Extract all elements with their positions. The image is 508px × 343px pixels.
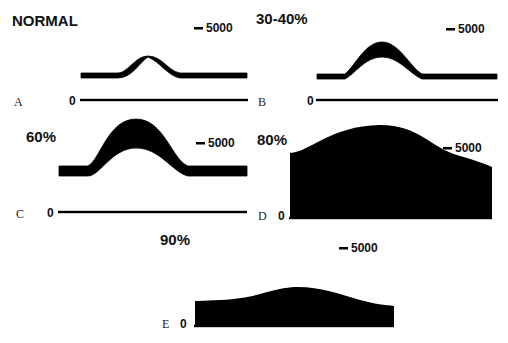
scale-bar-tick: [443, 147, 452, 150]
scale-bar: 5000: [194, 21, 233, 35]
panel-letter: E: [162, 317, 169, 331]
panel-letter: C: [16, 207, 24, 221]
scale-bar-label: 5000: [455, 141, 482, 155]
scale-bar: 5000: [446, 22, 485, 36]
scale-bar: 5000: [339, 241, 378, 255]
pressure-envelope: [195, 287, 394, 326]
panel-title: 60%: [26, 128, 56, 145]
scale-bar-label: 5000: [208, 136, 235, 150]
scale-bar-label: 5000: [458, 22, 485, 36]
panel-d: 80%D50000: [257, 125, 492, 223]
panel-title: 90%: [160, 231, 190, 248]
zero-label: 0: [278, 209, 285, 223]
zero-label: 0: [180, 317, 187, 331]
zero-label: 0: [307, 94, 314, 108]
scale-bar-label: 5000: [206, 21, 233, 35]
zero-label: 0: [69, 94, 76, 108]
panel-letter: A: [14, 95, 23, 109]
panel-title: NORMAL: [12, 12, 78, 29]
panel-letter: D: [258, 209, 267, 223]
scale-bar-tick: [339, 247, 348, 250]
zero-baseline: [80, 99, 248, 101]
pressure-envelope: [81, 56, 247, 78]
scale-bar-label: 5000: [351, 241, 378, 255]
panel-a: NORMALA50000: [12, 12, 248, 109]
scale-bar-tick: [446, 28, 455, 31]
scale-bar-tick: [194, 27, 203, 30]
panel-e: 90%E50000: [160, 231, 394, 331]
zero-baseline: [316, 99, 498, 101]
scale-bar: 5000: [196, 136, 235, 150]
panel-title: 80%: [257, 131, 287, 148]
zero-label: 0: [47, 206, 54, 220]
pressure-envelope: [290, 125, 492, 218]
cardiac-gradient-figure: NORMALA5000030-40%B5000060%C5000080%D500…: [0, 0, 508, 343]
panel-b: 30-40%B50000: [256, 10, 498, 109]
scale-bar-tick: [196, 142, 205, 145]
pressure-envelope: [317, 42, 497, 79]
panel-letter: B: [258, 95, 266, 109]
zero-baseline: [58, 211, 247, 213]
panel-c: 60%C50000: [16, 119, 247, 221]
panel-title: 30-40%: [256, 10, 308, 27]
